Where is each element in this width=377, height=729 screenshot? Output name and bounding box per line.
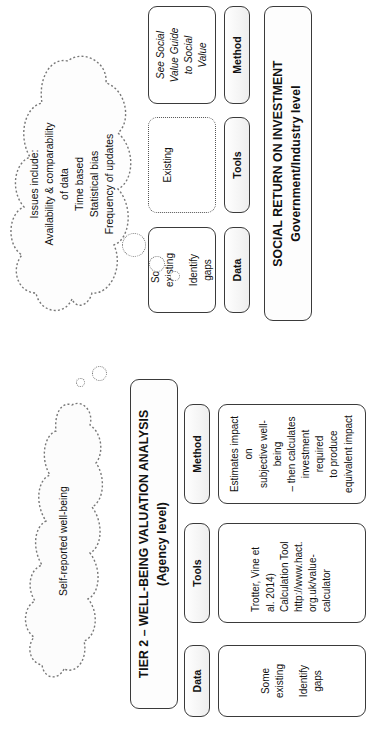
sroi-header-method: Method [224, 6, 250, 104]
tier2-data-line-1: Some [259, 664, 273, 698]
tier2-method-line-6: equivalent impact [342, 415, 356, 493]
tier2-method-line-4: investment required [299, 412, 327, 496]
sroi-title-box: SOCIAL RETURN ON INVESTMENT Government/I… [264, 6, 312, 321]
sroi-cloud-bubble-small [170, 271, 180, 281]
tier2-content-data: Some existing Identify gaps [218, 645, 366, 717]
tier2-tools-line-1: Trotter, Vine et [249, 547, 263, 612]
tier2-content-tools: Trotter, Vine et al. 2014) Calculation T… [218, 523, 366, 623]
tier2-title: TIER 2 – WELL-BEING VALUATION ANALYSIS (… [136, 390, 171, 698]
tier2-header-method: Method [184, 404, 210, 504]
sroi-method-line-2: Value Guide [168, 28, 182, 83]
sroi-data-para-2: Identify gaps [187, 254, 215, 286]
tier2-tools-line-4: http://www.hact. [292, 541, 306, 612]
tier2-title-box: TIER 2 – WELL-BEING VALUATION ANALYSIS (… [130, 379, 178, 709]
tier2-header-method-label: Method [191, 435, 203, 472]
sroi-data-line-2: existing [163, 253, 177, 287]
sroi-section: SOCIAL RETURN ON INVESTMENT Government/I… [0, 0, 377, 329]
sroi-method-line-1: See Social [154, 31, 168, 79]
sroi-header-data: Data [224, 227, 250, 313]
tier2-cloud-bubble-small [76, 378, 85, 387]
sroi-tools-line-1: Existing [161, 148, 175, 183]
tier2-cloud-bubble-large [92, 366, 107, 381]
tier2-tools-line-3: Calculation Tool [278, 542, 292, 612]
sroi-thought-cloud: Issues include: Availability & comparabi… [6, 45, 138, 323]
tier2-header-tools: Tools [184, 523, 210, 623]
sroi-header-data-label: Data [231, 259, 243, 282]
tier2-method-line-3: – then calculates [285, 416, 299, 491]
tier2-tools-line-6: calculator [320, 569, 334, 612]
tier2-data-line-4: gaps [311, 665, 325, 697]
sroi-header-tools: Tools [224, 117, 250, 213]
diagram-canvas: TIER 2 – WELL-BEING VALUATION ANALYSIS (… [0, 0, 377, 729]
sroi-data-line-3: Identify [187, 254, 201, 286]
sroi-data-line-4: gaps [201, 254, 215, 286]
sroi-header-tools-label: Tools [231, 151, 243, 178]
sroi-method-line-4: Value [196, 42, 210, 67]
sroi-cloud-shape [6, 45, 138, 323]
sroi-title-line-1: SOCIAL RETURN ON INVESTMENT [270, 60, 288, 266]
tier2-thought-cloud: Self-reported well-being [18, 391, 110, 691]
tier2-method-line-1: Estimates impact on [228, 412, 256, 496]
tier2-header-data-label: Data [191, 670, 203, 693]
tier2-data-line-2: existing [273, 664, 287, 698]
tier2-header-data: Data [184, 645, 210, 717]
tier2-method-line-2: subjective well-being [257, 412, 285, 496]
sroi-method-line-3: to Social [182, 36, 196, 74]
sroi-cloud-bubble-large [122, 233, 146, 257]
tier2-content-method: Estimates impact on subjective well-bein… [218, 404, 366, 504]
tier2-data-para-1: Some existing [259, 664, 287, 698]
sroi-content-method: See Social Value Guide to Social Value [148, 6, 216, 104]
tier2-data-para-2: Identify gaps [297, 665, 325, 697]
tier2-tools-line-2: al. 2014) [264, 573, 278, 612]
tier2-section: TIER 2 – WELL-BEING VALUATION ANALYSIS (… [0, 364, 377, 729]
sroi-content-tools: Existing [148, 117, 216, 213]
tier2-cloud-shape [18, 391, 110, 691]
tier2-header-tools-label: Tools [191, 559, 203, 586]
tier2-tools-line-5: org.uk/value- [306, 554, 320, 612]
tier2-method-line-5: to produce [327, 430, 341, 477]
sroi-title-line-2: Government/Industry level [288, 85, 306, 241]
sroi-cloud-bubble-medium [149, 256, 165, 272]
sroi-header-method-label: Method [231, 36, 243, 73]
tier2-data-line-3: Identify [297, 665, 311, 697]
